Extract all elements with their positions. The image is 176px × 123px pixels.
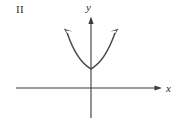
coordinate-plane-svg <box>0 0 176 123</box>
x-axis-label: x <box>166 83 171 94</box>
panel-label: II <box>16 4 24 15</box>
y-axis-arrow-icon <box>88 17 93 25</box>
y-axis-label: y <box>86 2 91 13</box>
graph-figure: II y x <box>0 0 176 123</box>
x-axis-arrow-icon <box>155 85 163 90</box>
